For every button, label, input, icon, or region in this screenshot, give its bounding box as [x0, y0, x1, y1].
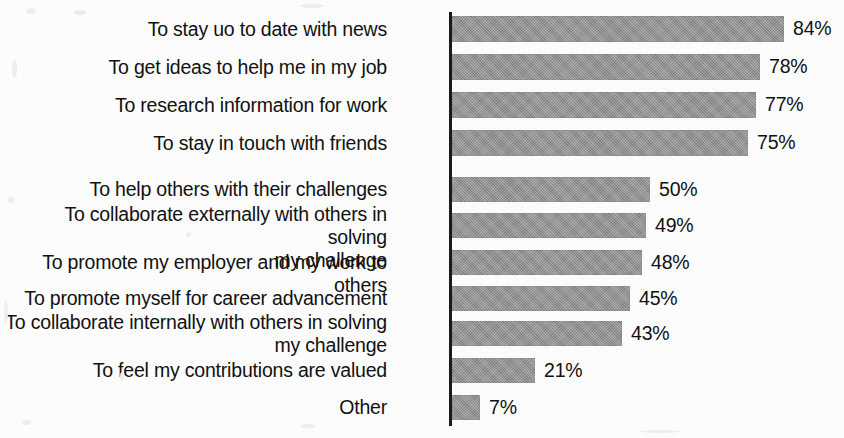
bar-value-label: 43%	[631, 324, 669, 344]
category-label: To feel my contributions are valued	[93, 359, 394, 382]
bar-value-label: 75%	[757, 133, 795, 153]
bar	[452, 286, 630, 311]
bar	[452, 54, 760, 80]
category-label: Other	[339, 396, 394, 419]
category-label: To promote my employer and my work to ot…	[0, 251, 394, 274]
category-label: To research information for work	[115, 94, 394, 117]
category-label: To stay in touch with friends	[153, 132, 394, 155]
category-label: To get ideas to help me in my job	[109, 56, 394, 79]
category-label: To help others with their challenges	[90, 178, 394, 201]
category-label: To collaborate internally with others in…	[5, 311, 394, 357]
bar-value-label: 21%	[544, 361, 582, 381]
bar-value-label: 84%	[793, 19, 831, 39]
bar-value-label: 78%	[769, 57, 807, 77]
bar	[452, 92, 756, 118]
bar-value-label: 49%	[655, 216, 693, 236]
bar	[452, 395, 480, 420]
bar	[452, 250, 642, 275]
bar	[452, 213, 646, 238]
bar-value-label: 48%	[651, 253, 689, 273]
bar-value-label: 77%	[765, 95, 803, 115]
bar	[452, 358, 535, 383]
bar	[452, 321, 622, 346]
bar-chart: To stay uo to date with news84%To get id…	[0, 0, 844, 438]
category-label: To collaborate externally with others in…	[0, 203, 394, 249]
bar	[452, 177, 650, 202]
bar-value-label: 50%	[659, 180, 697, 200]
category-label: To promote myself for career advancement	[24, 287, 394, 310]
bar-value-label: 7%	[489, 398, 517, 418]
bar-value-label: 45%	[639, 289, 677, 309]
bar	[452, 130, 748, 156]
plot-area: To stay uo to date with news84%To get id…	[0, 0, 844, 438]
bar	[452, 16, 784, 42]
category-label: To stay uo to date with news	[148, 18, 394, 41]
